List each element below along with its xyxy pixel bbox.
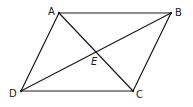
diagonal-bd <box>21 13 171 91</box>
vertex-c <box>132 90 134 92</box>
segment-bc <box>133 13 171 91</box>
parallelogram-diagram: A B C D E <box>0 0 193 107</box>
label-d: D <box>9 88 17 99</box>
vertex-b <box>170 12 172 14</box>
vertex-a <box>58 12 60 14</box>
label-e: E <box>91 56 98 67</box>
segment-da <box>21 13 59 91</box>
label-c: C <box>136 89 143 100</box>
label-a: A <box>48 6 55 17</box>
vertex-d <box>20 90 22 92</box>
label-b: B <box>175 7 182 18</box>
